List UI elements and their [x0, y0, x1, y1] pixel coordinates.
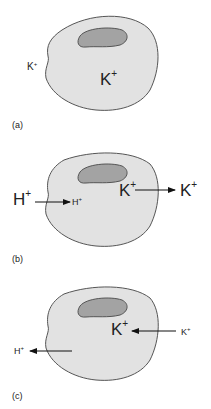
panel-a: K+ K+ (a) — [12, 16, 158, 130]
k-outside-label: K+ — [181, 326, 191, 337]
caption-c: (c) — [12, 391, 23, 401]
h-outside-label: H+ — [13, 188, 31, 209]
panel-c: K+ K+ H+ (c) — [12, 287, 191, 401]
outside-k-label: K+ — [27, 61, 38, 72]
k-outside-label: K+ — [180, 179, 197, 200]
h-outside-label: H+ — [14, 345, 25, 356]
caption-a: (a) — [12, 120, 23, 130]
caption-b: (b) — [12, 254, 23, 264]
ion-exchange-diagram: K+ K+ (a) H+ H+ K+ K+ (b) K+ K+ H+ (c) — [0, 0, 211, 409]
panel-b: H+ H+ K+ K+ (b) — [12, 153, 197, 264]
